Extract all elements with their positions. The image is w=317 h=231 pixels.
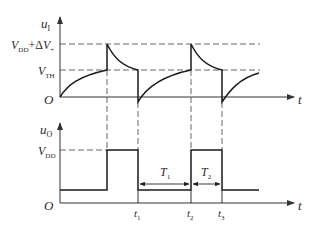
top-y-label: uI bbox=[41, 16, 51, 33]
t3-tick-label: t3 bbox=[218, 207, 225, 222]
input-voltage-plot: uI VDD+ΔV+ VTH O t bbox=[11, 16, 302, 107]
t2-interval-label: T2 bbox=[201, 165, 212, 181]
bottom-x-label: t bbox=[298, 198, 302, 213]
transition-guides bbox=[107, 70, 222, 150]
t2-tick-label: t2 bbox=[187, 207, 194, 222]
input-waveform bbox=[60, 44, 259, 102]
vdd-label: VDD bbox=[38, 144, 55, 160]
vth-label: VTH bbox=[38, 64, 55, 80]
top-x-label: t bbox=[298, 92, 302, 107]
bottom-y-label: uO bbox=[40, 122, 53, 139]
output-voltage-plot: T1 T2 uO VDD O t t1 t2 t3 bbox=[38, 122, 302, 222]
vdd-plus-dv-label: VDD+ΔV+ bbox=[11, 38, 54, 54]
t1-tick-label: t1 bbox=[134, 207, 141, 222]
bottom-origin-label: O bbox=[44, 198, 54, 213]
t1-interval-label: T1 bbox=[160, 165, 171, 181]
top-origin-label: O bbox=[44, 92, 54, 107]
timing-diagram: uI VDD+ΔV+ VTH O t T1 T2 uO VDD O t t1 bbox=[0, 0, 317, 231]
